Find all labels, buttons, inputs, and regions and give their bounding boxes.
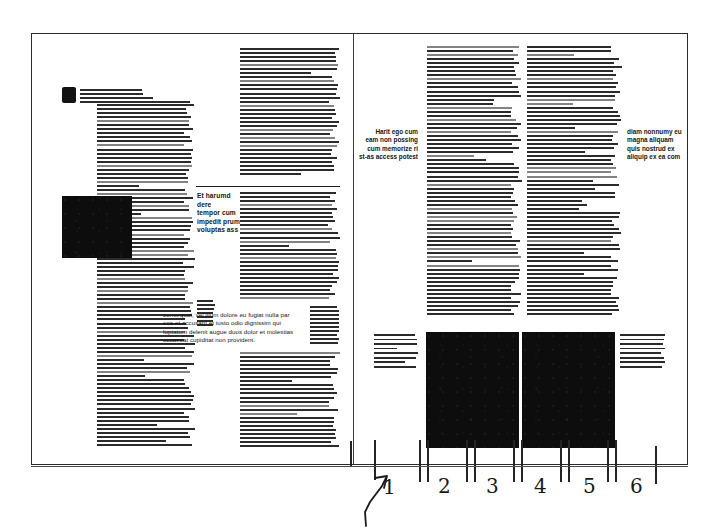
body-text-line xyxy=(97,274,184,276)
grid-tick xyxy=(568,440,570,482)
body-text-line xyxy=(527,293,611,295)
body-text-line xyxy=(240,273,333,275)
body-text-line xyxy=(240,80,334,82)
right-column-1 xyxy=(427,46,522,321)
body-text-line xyxy=(240,429,336,431)
body-text-line xyxy=(527,119,621,121)
body-text-line xyxy=(97,399,193,401)
right-caption-left xyxy=(374,334,420,372)
body-text-line xyxy=(240,117,332,119)
body-text-line xyxy=(97,185,139,187)
left-column-2-lower xyxy=(240,192,340,304)
body-text-line xyxy=(427,99,494,101)
body-text-line xyxy=(80,89,142,91)
pullquote-rule xyxy=(196,186,340,187)
body-text-line xyxy=(97,379,184,381)
body-text-line xyxy=(240,52,335,54)
body-text-line xyxy=(240,364,330,366)
body-text-line xyxy=(527,171,611,173)
body-text-line xyxy=(427,46,519,48)
body-text-line xyxy=(427,293,521,295)
body-text-line xyxy=(527,74,616,76)
body-text-line xyxy=(97,181,188,183)
body-text-line xyxy=(527,309,619,311)
body-text-line xyxy=(527,220,612,222)
body-text-line xyxy=(310,334,337,336)
body-text-line xyxy=(527,313,612,315)
body-text-line xyxy=(97,132,184,134)
body-text-line xyxy=(80,93,143,95)
body-text-line xyxy=(527,305,618,307)
body-text-line xyxy=(97,424,157,426)
margin-note-right-line: aliquip ex ea com xyxy=(627,153,689,161)
body-text-line xyxy=(427,123,521,125)
body-text-line xyxy=(240,241,330,243)
body-text-line xyxy=(527,147,614,149)
body-text-line xyxy=(240,105,334,107)
body-text-line xyxy=(97,428,195,430)
body-text-line xyxy=(240,445,339,447)
body-text-line xyxy=(427,155,474,157)
grid-number-6: 6 xyxy=(630,474,643,498)
body-text-line xyxy=(427,66,514,68)
body-text-line xyxy=(527,248,620,250)
body-text-line xyxy=(427,265,519,267)
body-text-line xyxy=(527,91,620,93)
body-text-line xyxy=(310,322,339,324)
body-text-line xyxy=(527,212,620,214)
body-text-line xyxy=(427,305,518,307)
body-text-line xyxy=(527,228,619,230)
page-gutter-divider xyxy=(353,33,354,465)
body-text-line xyxy=(427,289,511,291)
body-text-line xyxy=(427,135,518,137)
body-text-line xyxy=(527,196,615,198)
body-text-line xyxy=(240,289,330,291)
body-text-line xyxy=(197,320,213,322)
body-text-line xyxy=(240,352,340,354)
body-text-line xyxy=(527,135,613,137)
body-text-line xyxy=(197,316,213,318)
body-text-line xyxy=(310,342,338,344)
pull-quote-line: Et harumd dere xyxy=(197,192,241,209)
body-text-line xyxy=(240,153,331,155)
body-text-line xyxy=(240,433,335,435)
body-text-line xyxy=(427,208,512,210)
body-text-line xyxy=(97,124,189,126)
grid-number-2: 2 xyxy=(438,474,451,498)
body-text-line xyxy=(427,91,519,93)
body-text-line xyxy=(240,384,333,386)
body-text-line xyxy=(240,133,330,135)
body-text-line xyxy=(527,281,613,283)
body-text-line xyxy=(97,375,145,377)
grid-number-4: 4 xyxy=(534,474,547,498)
body-text-line xyxy=(240,157,337,159)
body-text-line xyxy=(527,184,619,186)
body-text-line xyxy=(240,169,334,171)
body-text-line xyxy=(527,273,584,275)
pull-quote-line: impedit prum xyxy=(197,218,241,227)
body-text-line xyxy=(240,165,334,167)
pull-quote-line: voluptas ass xyxy=(197,226,241,235)
body-text-line xyxy=(240,72,311,74)
body-text-line xyxy=(527,200,582,202)
body-text-line xyxy=(427,111,511,113)
body-text-line xyxy=(310,306,337,308)
body-text-line xyxy=(527,163,613,165)
grid-tick xyxy=(474,440,476,482)
body-text-line xyxy=(427,151,513,153)
body-text-line xyxy=(427,62,519,64)
body-text-line xyxy=(97,408,195,410)
body-text-line xyxy=(240,88,337,90)
body-text-line xyxy=(374,366,416,368)
body-text-line xyxy=(97,157,192,159)
body-text-line xyxy=(97,189,185,191)
body-text-line xyxy=(240,84,338,86)
body-text-line xyxy=(427,107,512,109)
body-text-line xyxy=(97,395,194,397)
body-text-line xyxy=(527,285,613,287)
body-text-line xyxy=(427,103,493,105)
body-text-line xyxy=(197,324,213,326)
body-text-line xyxy=(527,256,611,258)
body-text-line xyxy=(527,78,613,80)
body-text-line xyxy=(97,169,189,171)
